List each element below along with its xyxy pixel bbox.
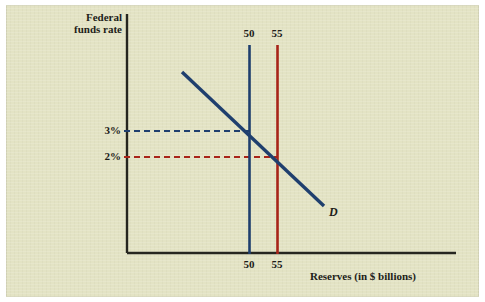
demand-curve: [182, 72, 324, 206]
x-axis-title: Reserves (in $ billions): [310, 270, 416, 282]
top-label-50: 50: [236, 27, 262, 39]
y-tick-label-3-percent: 3%: [88, 124, 121, 136]
y-tick-label-2-percent: 2%: [88, 150, 121, 162]
figure-container: Federal funds rate 3% 2% 50 55 50 55 D R…: [0, 0, 485, 302]
y-axis-title-line1: Federal: [60, 11, 122, 23]
y-axis-title-line2: funds rate: [60, 23, 122, 35]
x-tick-label-55: 55: [264, 258, 290, 270]
chart-plot-area: [0, 0, 485, 302]
y-axis-title: Federal funds rate: [60, 11, 122, 36]
top-label-55: 55: [264, 27, 290, 39]
demand-curve-label: D: [329, 206, 338, 219]
x-tick-label-50: 50: [236, 258, 262, 270]
